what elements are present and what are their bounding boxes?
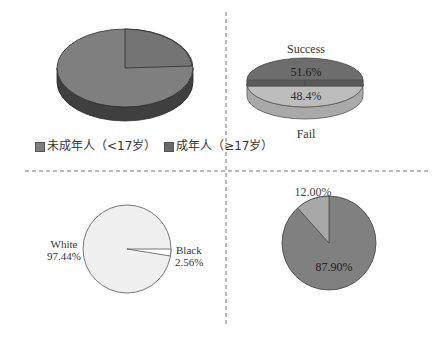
legend-item-minors: 未成年人（<17岁）: [35, 139, 160, 153]
legend-swatch-adults: [164, 142, 174, 152]
label-fail: Fail: [297, 127, 316, 141]
chart-age-3d-pie: [0, 0, 226, 135]
value-large: 87.90%: [316, 260, 353, 274]
value-white: 97.44%: [47, 250, 81, 262]
chart-percentage-pie: 12.00% 87.90%: [221, 169, 437, 336]
value-black: 2.56%: [175, 256, 203, 268]
legend-label-minors: 未成年人（<17岁）: [47, 139, 156, 153]
chart-success-fail-3d-pie: Success 51.6% 48.4% Fail: [226, 0, 442, 165]
label-black: Black: [176, 244, 202, 256]
legend-swatch-minors: [35, 142, 45, 152]
value-small: 12.00%: [295, 185, 332, 199]
label-white: White: [51, 238, 78, 250]
label-success: Success: [287, 42, 325, 56]
pie-slice-adults: [125, 29, 192, 68]
value-fail: 48.4%: [291, 89, 322, 103]
value-success: 51.6%: [291, 65, 322, 79]
chart-race-pie: White 97.44% Black 2.56%: [0, 171, 226, 338]
